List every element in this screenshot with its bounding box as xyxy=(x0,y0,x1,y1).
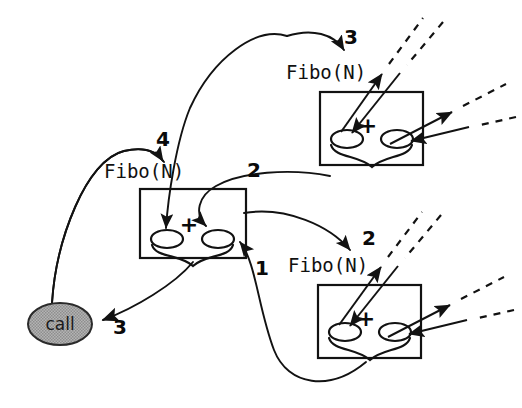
step-label-3-top: 3 xyxy=(344,25,358,49)
step-label-2-center: 2 xyxy=(247,158,261,182)
ray-in-top-left-slot-dashed xyxy=(407,22,443,65)
frame-center-slot-left[interactable] xyxy=(151,230,183,248)
ray-out-top-right-slot-dashed xyxy=(463,84,506,106)
ray-out-bottom-right-slot-dashed xyxy=(461,277,504,299)
call-node-label: call xyxy=(45,314,74,334)
diagram-canvas: + Fibo(N) + Fibo(N) + Fibo(N) xyxy=(0,0,522,408)
call-node[interactable]: call xyxy=(28,303,92,345)
ray-in-bottom-right-slot-dashed xyxy=(474,310,514,319)
frame-top-right-label: Fibo(N) xyxy=(286,61,366,83)
frame-center[interactable]: + Fibo(N) xyxy=(104,160,246,266)
step-label-2-bottom: 2 xyxy=(362,226,376,250)
ray-in-bottom-left-slot-dashed xyxy=(405,215,441,258)
frame-bottom-right-operator: + xyxy=(357,306,375,331)
ray-out-bottom-left-slot-dashed xyxy=(388,212,422,257)
frame-center-label: Fibo(N) xyxy=(104,160,184,182)
frame-top-right-operator: + xyxy=(359,113,377,138)
frame-bottom-right[interactable]: + Fibo(N) xyxy=(288,254,421,360)
frame-bottom-right-label: Fibo(N) xyxy=(288,254,368,276)
ray-in-top-right-slot-dashed xyxy=(476,117,516,126)
edge-center-to-bottom-right xyxy=(244,212,350,250)
step-label-1: 1 xyxy=(255,256,269,280)
diagram-svg: + Fibo(N) + Fibo(N) + Fibo(N) xyxy=(0,0,522,408)
frame-bottom-right-slot-right[interactable] xyxy=(379,323,411,341)
frame-top-right-slot-right[interactable] xyxy=(381,130,413,148)
frame-center-slot-right[interactable] xyxy=(202,230,234,248)
step-label-4: 4 xyxy=(156,127,170,151)
step-label-3-call: 3 xyxy=(113,315,127,339)
edge-center-to-call xyxy=(103,262,193,320)
ray-out-top-left-slot-dashed xyxy=(389,18,423,64)
edge-top-right-to-center xyxy=(199,172,330,226)
frame-center-operator: + xyxy=(180,212,198,237)
